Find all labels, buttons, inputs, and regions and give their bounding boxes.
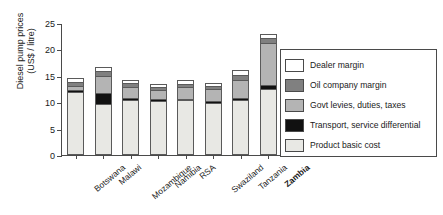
legend-swatch [285,59,304,72]
bar-zambia[interactable] [260,34,277,155]
bar-segment [177,87,194,98]
bar-swaziland[interactable] [205,83,222,155]
y-axis-tick-label: 5 [25,126,55,135]
x-axis-tick [186,155,187,159]
legend-label: Govt levies, duties, taxes [310,100,406,110]
y-axis-tick [57,156,62,157]
y-axis-tick-label: 20 [25,46,55,55]
x-axis-tick [241,155,242,159]
x-axis-tick [103,155,104,159]
legend-item[interactable]: Product basic cost [285,135,436,155]
x-axis-label-zambia: Zambia [283,163,312,189]
legend-item[interactable]: Dealer margin [285,55,436,75]
bar-segment [67,92,84,155]
y-axis-tick [57,24,62,25]
legend-item[interactable]: Oil company margin [285,75,436,95]
bar-segment [150,90,167,100]
bar-segment [232,80,249,98]
bar-segment [95,104,112,155]
legend-swatch [285,99,304,112]
bar-segment [122,87,139,99]
chart-legend: Dealer marginOil company marginGovt levi… [280,49,437,157]
legend-swatch [285,119,304,132]
bar-malawi[interactable] [95,67,112,155]
y-axis-tick-label: 10 [25,99,55,108]
bar-rsa[interactable] [177,80,194,155]
x-axis-tick [76,155,77,159]
bar-segment [260,89,277,155]
bar-segment [177,100,194,155]
chart-figure: Diesel pump prices (US$ / litre) 0510152… [0,0,443,215]
plot-area: 0510152025BotswanaMalawiMozambiqueNamibi… [61,24,281,156]
bar-segment [205,103,222,155]
x-axis-label-rsa: RSA [198,163,217,181]
legend-swatch [285,139,304,152]
x-axis-tick [268,155,269,159]
bar-segment [205,89,222,101]
legend-swatch [285,79,304,92]
x-axis-tick [158,155,159,159]
bar-botswana[interactable] [67,78,84,155]
bar-segment [232,100,249,155]
bar-segment [260,43,277,86]
legend-item[interactable]: Transport, service differential [285,115,436,135]
x-axis-tick [131,155,132,159]
bar-segment [150,101,167,155]
bar-tanzania[interactable] [232,70,249,155]
bar-segment [95,76,112,93]
x-axis-tick [213,155,214,159]
y-axis-tick-label: 25 [25,20,55,29]
y-axis-tick [57,103,62,104]
legend-label: Dealer margin [310,60,364,70]
y-axis-tick-label: 15 [25,73,55,82]
legend-label: Transport, service differential [310,120,420,130]
y-axis-tick-label: 0 [25,152,55,161]
y-axis-tick [57,130,62,131]
legend-label: Oil company margin [310,80,386,90]
legend-item[interactable]: Govt levies, duties, taxes [285,95,436,115]
y-axis-tick [57,77,62,78]
legend-label: Product basic cost [310,140,380,150]
bar-segment [122,100,139,155]
y-axis-tick [57,50,62,51]
bar-namibia[interactable] [150,84,167,155]
bar-mozambique[interactable] [122,80,139,156]
bar-segment [95,93,112,105]
